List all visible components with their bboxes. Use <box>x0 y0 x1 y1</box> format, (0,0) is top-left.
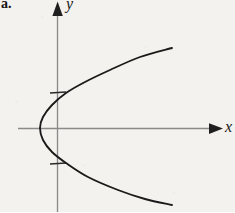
coordinate-plane-graphic <box>0 0 235 212</box>
y-axis-arrowhead <box>52 2 62 17</box>
axes-group <box>18 2 223 213</box>
figure-panel: a. y x <box>0 0 235 212</box>
parabola-curve-group <box>40 48 172 205</box>
y-axis-label: y <box>66 0 73 12</box>
parabola-curve <box>40 48 172 205</box>
tick-lower-mark <box>50 163 66 164</box>
tick-upper-mark <box>50 92 66 93</box>
x-axis-label: x <box>225 119 232 135</box>
x-axis-arrowhead <box>209 123 223 134</box>
